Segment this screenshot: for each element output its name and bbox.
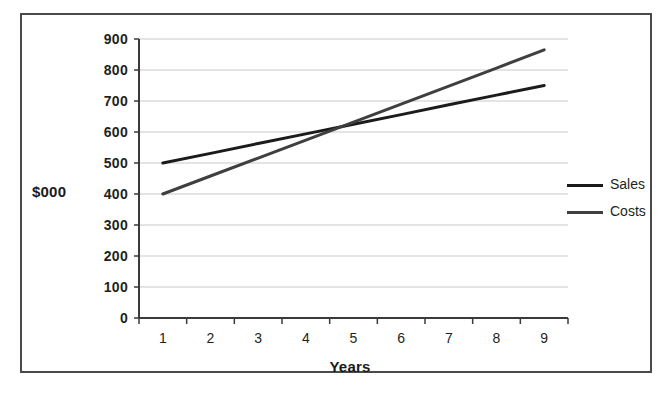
x-axis-title: Years (290, 358, 410, 375)
x-axis-tick-label: 1 (148, 331, 178, 345)
y-axis-tick-label: 900 (76, 32, 128, 46)
x-axis-tick-label: 4 (291, 331, 321, 345)
x-axis-tick-label: 8 (482, 331, 512, 345)
y-axis-tick-label: 400 (76, 187, 128, 201)
x-axis-tick-label: 6 (386, 331, 416, 345)
y-axis-tick-label: 500 (76, 156, 128, 170)
x-axis-tick-label: 2 (196, 331, 226, 345)
y-axis-tick-label: 600 (76, 125, 128, 139)
series-line-sales (163, 86, 544, 164)
y-axis-tick-label: 800 (76, 63, 128, 77)
x-axis-tick-label: 3 (243, 331, 273, 345)
legend-item-sales[interactable]: Sales (567, 175, 653, 202)
legend-item-costs[interactable]: Costs (567, 202, 653, 229)
y-axis-tick-label: 300 (76, 218, 128, 232)
x-axis-tick-label: 9 (529, 331, 559, 345)
y-axis-tick-label: 200 (76, 249, 128, 263)
legend-label: Costs (610, 202, 646, 221)
y-axis-tick-label: 700 (76, 94, 128, 108)
series-lines (163, 50, 544, 194)
y-axis-title: $000 (32, 183, 66, 200)
x-axis-tick-label: 7 (434, 331, 464, 345)
series-line-costs (163, 50, 544, 194)
chart-legend: SalesCosts (567, 175, 653, 229)
legend-swatch-sales (567, 184, 603, 187)
line-chart: 9008007006005004003002001000 123456789 $… (22, 15, 654, 375)
x-axis-tick-label: 5 (339, 331, 369, 345)
legend-swatch-costs (567, 211, 603, 214)
y-axis-tick-label: 0 (76, 311, 128, 325)
figure-frame: 9008007006005004003002001000 123456789 $… (20, 13, 652, 373)
y-axis-tick-label: 100 (76, 280, 128, 294)
legend-label: Sales (610, 175, 645, 194)
